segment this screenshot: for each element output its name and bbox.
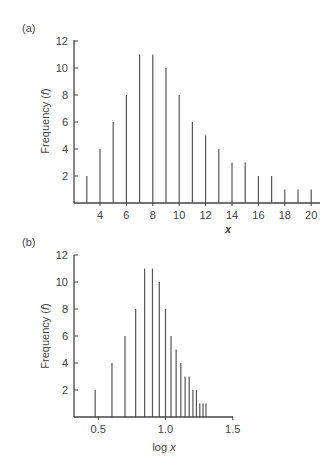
panel-b-x-tick-label: 0.5 <box>91 423 106 435</box>
panel-b-y-tick-label: 6 <box>62 330 68 342</box>
panel-a-x-tick-label: 12 <box>199 209 211 221</box>
panel-a-y-tick-label: 6 <box>62 116 68 128</box>
panel-a-x-tick-label: 6 <box>123 209 129 221</box>
panel-a-x-tick-label: 20 <box>305 209 317 221</box>
panel-b-y-tick-label: 10 <box>56 276 68 288</box>
panel-a-y-tick-label: 12 <box>56 35 68 47</box>
panel-a-x-tick-label: 10 <box>173 209 185 221</box>
panel-b-y-axis-title: Frequency (f) <box>39 303 51 368</box>
panel-a-y-axis-title: Frequency (f) <box>39 88 51 153</box>
panel-b-x-tick-label: 1.0 <box>158 423 173 435</box>
panel-b-y-tick-label: 2 <box>62 384 68 396</box>
panel-a-x-tick-label: 14 <box>226 209 238 221</box>
panel-a-x-tick-label: 16 <box>252 209 264 221</box>
panel-b-x-tick-label: 1.5 <box>225 423 240 435</box>
panel-a-y-tick-label: 2 <box>62 170 68 182</box>
panel-a-y-tick-label: 4 <box>62 143 68 155</box>
panel-a-x-tick-label: 4 <box>97 209 103 221</box>
charts-canvas: 24681012468101214161820Frequency (f)x246… <box>0 0 334 469</box>
panel-a-x-tick-label: 18 <box>279 209 291 221</box>
panel-b-y-tick-label: 4 <box>62 357 68 369</box>
panel-a-y-tick-label: 10 <box>56 62 68 74</box>
panel-b-x-axis-title: log x <box>152 441 176 453</box>
panel-a-y-tick-label: 8 <box>62 89 68 101</box>
panel-b-y-tick-label: 12 <box>56 249 68 261</box>
panel-a-x-tick-label: 8 <box>150 209 156 221</box>
panel-b-y-tick-label: 8 <box>62 303 68 315</box>
panel-a-x-axis-title: x <box>224 223 232 235</box>
